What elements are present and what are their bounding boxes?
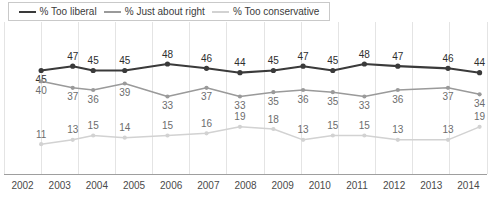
data-label: 33: [162, 100, 174, 111]
line-swatch-icon: [104, 11, 121, 13]
line-swatch-icon: [212, 11, 229, 13]
x-tick-label: 2014: [448, 176, 488, 196]
data-point: [39, 68, 44, 73]
data-label: 13: [392, 124, 404, 135]
data-label: 48: [359, 49, 371, 60]
data-label: 45: [119, 55, 131, 66]
series-too-conservative: 1113151415161918131515131319: [36, 111, 486, 146]
plot-area: 4547454548464445474548474644403736393337…: [0, 22, 491, 174]
data-point: [301, 88, 305, 92]
data-point: [39, 79, 43, 83]
data-point: [165, 133, 169, 137]
data-point: [70, 64, 75, 69]
data-label: 18: [268, 114, 280, 125]
data-label: 13: [442, 124, 454, 135]
data-label: 47: [67, 51, 79, 62]
x-axis-ticks: 2002200320042005200620072008200920102011…: [0, 176, 491, 198]
data-label: 14: [119, 122, 131, 133]
data-label: 46: [442, 53, 454, 64]
chart-container: % Too liberal % Just about right % Too c…: [0, 0, 491, 200]
series-too-liberal: 4547454548464445474548474644: [36, 49, 486, 86]
data-label: 36: [392, 94, 404, 105]
data-point: [477, 92, 481, 96]
data-point: [123, 81, 127, 85]
data-point: [204, 131, 208, 135]
data-label: 15: [327, 120, 339, 131]
data-label: 45: [88, 55, 100, 66]
data-point: [362, 61, 367, 66]
data-label: 36: [298, 94, 310, 105]
data-point: [165, 61, 170, 66]
x-tick-label: 2003: [40, 176, 80, 196]
data-point: [362, 94, 366, 98]
data-label: 39: [119, 87, 131, 98]
x-tick-label: 2011: [337, 176, 377, 196]
data-point: [300, 64, 305, 69]
data-point: [91, 88, 95, 92]
x-tick-label: 2009: [263, 176, 303, 196]
x-tick-label: 2006: [151, 176, 191, 196]
legend-label-too-liberal: % Too liberal: [40, 7, 97, 17]
x-tick-label: 2013: [411, 176, 451, 196]
data-label: 47: [298, 51, 310, 62]
data-point: [446, 138, 450, 142]
data-point: [396, 138, 400, 142]
data-label: 34: [474, 98, 486, 109]
legend-item-too-conservative: % Too conservative: [212, 7, 320, 17]
data-label: 44: [234, 57, 246, 68]
chart-legend: % Too liberal % Just about right % Too c…: [8, 2, 330, 21]
data-point: [271, 90, 275, 94]
data-label: 37: [442, 91, 454, 102]
data-point: [123, 136, 127, 140]
data-point: [238, 94, 242, 98]
data-label: 47: [392, 51, 404, 62]
data-point: [91, 68, 96, 73]
data-point: [204, 86, 208, 90]
data-point: [330, 68, 335, 73]
data-label: 19: [474, 111, 486, 122]
x-tick-label: 2008: [226, 176, 266, 196]
data-label: 45: [327, 55, 339, 66]
data-label: 15: [162, 120, 174, 131]
data-label: 40: [36, 85, 48, 96]
series-line: [41, 64, 479, 73]
series-line: [41, 127, 479, 144]
data-point: [204, 66, 209, 71]
data-point: [331, 133, 335, 137]
data-point: [477, 70, 482, 75]
data-label: 48: [162, 49, 174, 60]
legend-label-too-conservative: % Too conservative: [233, 7, 320, 17]
data-label: 33: [234, 100, 246, 111]
x-tick-label: 2012: [374, 176, 414, 196]
data-point: [396, 88, 400, 92]
data-point: [271, 68, 276, 73]
data-label: 13: [67, 124, 79, 135]
data-point: [395, 64, 400, 69]
series-just-about-right: 4037363933373335363533363734: [36, 79, 486, 111]
data-point: [477, 125, 481, 129]
data-label: 15: [88, 120, 100, 131]
data-label: 35: [327, 96, 339, 107]
legend-label-just-about-right: % Just about right: [125, 7, 205, 17]
data-point: [331, 90, 335, 94]
chart-svg: 4547454548464445474548474644403736393337…: [0, 22, 491, 174]
data-label: 44: [474, 57, 486, 68]
x-tick-label: 2007: [188, 176, 228, 196]
x-tick-label: 2004: [77, 176, 117, 196]
data-label: 11: [36, 129, 47, 140]
data-point: [165, 94, 169, 98]
data-label: 19: [234, 111, 246, 122]
data-label: 15: [359, 120, 371, 131]
data-label: 35: [268, 96, 280, 107]
legend-item-just-about-right: % Just about right: [104, 7, 205, 17]
data-point: [91, 133, 95, 137]
data-label: 13: [298, 124, 310, 135]
data-label: 37: [201, 91, 213, 102]
data-point: [446, 86, 450, 90]
data-point: [271, 127, 275, 131]
x-axis-line: [4, 174, 487, 175]
data-label: 45: [268, 55, 280, 66]
legend-item-too-liberal: % Too liberal: [19, 7, 97, 17]
data-point: [445, 66, 450, 71]
data-point: [238, 125, 242, 129]
